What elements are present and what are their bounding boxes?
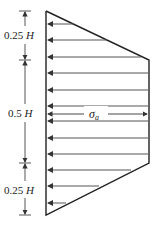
- dimension-label-top: 0.25 H: [4, 29, 35, 41]
- dimension-label-middle: 0.5 H: [8, 107, 34, 119]
- pressure-diagram: σa 0.25 H 0.5 H 0.25 H: [0, 0, 158, 228]
- dimension-label-bottom: 0.25 H: [4, 184, 35, 196]
